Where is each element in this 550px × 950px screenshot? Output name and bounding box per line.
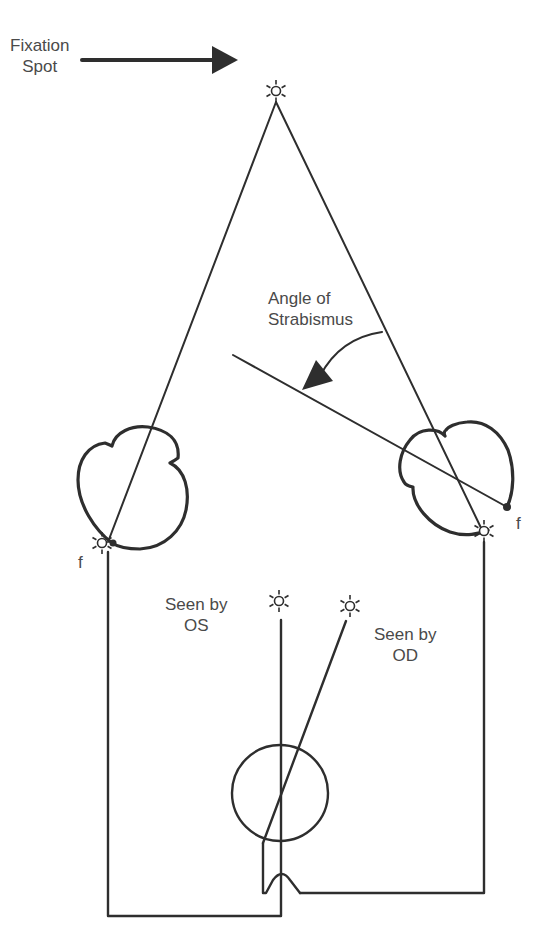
label-line: OD [374,645,436,666]
fixation-arrow [82,46,238,74]
diagram-canvas [0,0,550,950]
angle-of-strabismus-label: Angle of Strabismus [268,288,353,330]
image-seen-by-od-icon [341,595,360,617]
label-line: Strabismus [268,309,353,330]
od-pathway [300,542,484,893]
label-line: Seen by [374,624,436,645]
left-fovea-image-icon [93,532,112,554]
angle-arrow [302,332,382,390]
label-line: Fixation [10,35,70,56]
od-image-line [263,621,346,843]
strabismus-diagram: Fixation Spot Angle of Strabismus Seen b… [0,0,550,950]
left-eye-os [78,427,187,549]
fixation-spot-label: Fixation Spot [10,35,70,77]
right-fovea-label: f [516,513,521,534]
fixation-spot-icon [267,80,286,102]
label-line: Angle of [268,288,353,309]
deviated-axis [233,355,507,507]
left-fovea-label: f [78,552,83,573]
right-fovea-image-icon [475,520,494,542]
left-eye-visual-axis [108,102,276,542]
label-line: Seen by [165,594,227,615]
image-seen-by-os-icon [270,590,289,612]
seen-by-os-label: Seen by OS [165,594,227,636]
label-line: Spot [10,56,70,77]
label-line: OS [165,615,227,636]
seen-by-od-label: Seen by OD [374,624,436,666]
